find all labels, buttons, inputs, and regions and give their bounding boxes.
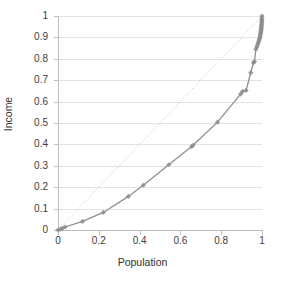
chart-series-layer (0, 0, 285, 282)
data-point-marker (243, 88, 248, 93)
y-axis-title: Income (2, 79, 14, 149)
data-point-marker (248, 70, 253, 75)
data-point-marker (80, 219, 85, 224)
lorenz-curve-markers (55, 13, 264, 232)
line-of-equality (58, 16, 262, 230)
lorenz-curve-chart: 00.10.20.30.40.50.60.70.80.91 00.20.40.6… (0, 0, 285, 282)
x-axis-title: Population (0, 256, 285, 268)
